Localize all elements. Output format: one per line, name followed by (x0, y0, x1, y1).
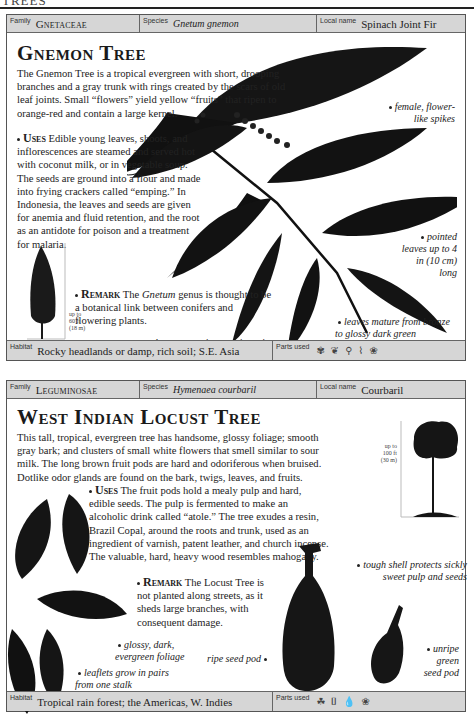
entry-description: The Gnemon Tree is a tropical evergreen … (17, 67, 287, 120)
seed-icon: ⚲ (345, 345, 352, 356)
remark-label: Remark (143, 575, 182, 589)
flower-icon: ✾ (316, 345, 324, 356)
species-value: Gnetum gnemon (173, 18, 239, 29)
caption-pointed-leaves: pointed leaves up to 4 in (10 cm) long (397, 231, 457, 279)
entry-gnemon-tree: Family Gnetaceae Species Gnetum gnemon L… (6, 14, 466, 361)
local-name-value: Spinach Joint Fir (361, 18, 436, 30)
parts-used-label: Parts used (276, 694, 309, 701)
entry-footer-bar: Habitat Rocky headlands or damp, rich so… (7, 340, 465, 360)
unripe-seed-pod-illustration (365, 603, 410, 688)
habitat-label: Habitat (10, 694, 32, 701)
family-cell: Family Leguminosae (7, 381, 140, 398)
height-note: up to100 ft(30 m) (379, 443, 397, 464)
habitat-cell: Habitat Rocky headlands or damp, rich so… (7, 341, 273, 360)
caption-unripe-pod: unripe green seed pod (417, 643, 459, 679)
remark-label: Remark (81, 287, 120, 301)
tree-silhouette-icon (399, 419, 464, 519)
intro-text: This tall, tropical, evergreen tree has … (17, 431, 337, 484)
seed-icon: ❀ (361, 696, 369, 707)
entry-description: This tall, tropical, evergreen tree has … (17, 431, 337, 484)
entry-west-indian-locust-tree: Family Leguminosae Species Hymenaea cour… (6, 380, 466, 712)
local-name-label: Local name (320, 383, 356, 390)
local-name-cell: Local name Spinach Joint Fir (317, 15, 465, 32)
species-label: Species (143, 17, 168, 24)
parts-used-label: Parts used (276, 343, 309, 350)
family-label: Family (10, 17, 31, 24)
uses-text: Edible young leaves, shoots, and inflore… (17, 133, 201, 250)
remark-paragraph: Remark The Gnetum genus is thought to be… (75, 288, 275, 328)
family-value: Leguminosae (36, 384, 98, 396)
family-cell: Family Gnetaceae (7, 15, 140, 32)
caption-glossy-foliage: glossy, dark, evergreen foliage (115, 639, 195, 663)
species-value: Hymenaea courbaril (173, 384, 256, 395)
intro-text: The Gnemon Tree is a tropical evergreen … (17, 67, 287, 120)
entry-title: West Indian Locust Tree (17, 405, 261, 430)
caption-ripe-pod: ripe seed pod (207, 653, 277, 665)
family-label: Family (10, 383, 31, 390)
entry-header-bar: Family Gnetaceae Species Gnetum gnemon L… (7, 15, 465, 33)
caption-leaves-mature: leaves mature from bronze to glossy dark… (335, 316, 460, 340)
caption-leaflets-pairs: leaflets grow in pairs from one stalk (75, 667, 175, 691)
local-name-label: Local name (320, 17, 356, 24)
habitat-value: Tropical rain forest; the Americas, W. I… (37, 696, 232, 708)
parts-used-cell: Parts used ☘ ⌷ 💧 ❀ (273, 692, 465, 711)
bark-icon: ⌷ (331, 696, 337, 708)
root-icon: ⌇ (359, 345, 364, 356)
habitat-cell: Habitat Tropical rain forest; the Americ… (7, 692, 273, 711)
species-cell: Species Gnetum gnemon (140, 15, 317, 32)
resin-icon: 💧 (343, 696, 355, 707)
remark-text: The (123, 289, 142, 300)
habitat-value: Rocky headlands or damp, rich soil; S.E.… (37, 345, 239, 357)
leaf-icon: ❦ (331, 345, 339, 356)
height-note: up to60 ft(18 m) (69, 311, 85, 332)
habitat-label: Habitat (10, 343, 32, 350)
head-rule (0, 7, 474, 9)
uses-paragraph: Uses Edible young leaves, shoots, and in… (17, 132, 202, 251)
entry-header-bar: Family Leguminosae Species Hymenaea cour… (7, 381, 465, 399)
uses-label: Uses (23, 131, 46, 145)
parts-used-cell: Parts used ✾ ❦ ⚲ ⌇ ❀ (273, 341, 465, 360)
remark-genus: Gnetum (142, 289, 176, 300)
local-name-cell: Local name Courbaril (317, 381, 465, 398)
fruit-icon: ❀ (369, 345, 377, 356)
caption-flower-spikes: female, flower-like spikes (379, 101, 455, 125)
local-name-value: Courbaril (361, 384, 403, 396)
caption-tough-shell: tough shell protects sickly sweet pulp a… (343, 559, 467, 583)
species-label: Species (143, 383, 168, 390)
entry-footer-bar: Habitat Tropical rain forest; the Americ… (7, 691, 465, 711)
remark-paragraph: Remark The Locust Tree is not planted al… (137, 576, 277, 629)
family-value: Gnetaceae (36, 18, 87, 30)
ripe-seed-pod-illustration (279, 541, 339, 706)
fruit-icon: ☘ (316, 696, 325, 707)
species-cell: Species Hymenaea courbaril (140, 381, 317, 398)
